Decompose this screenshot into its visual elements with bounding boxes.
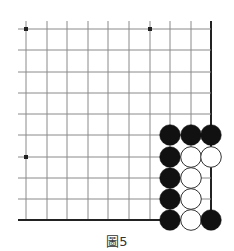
white-stone [201, 147, 222, 168]
black-stone [160, 189, 181, 210]
black-stone [201, 125, 222, 146]
star-point [24, 27, 28, 31]
figure-caption: 圖5 [0, 234, 234, 250]
black-stone [201, 210, 222, 231]
white-stone [181, 147, 202, 168]
star-point [24, 155, 28, 159]
star-point [148, 27, 152, 31]
go-board [0, 0, 234, 232]
black-stone [181, 125, 202, 146]
black-stone [160, 168, 181, 189]
stones [160, 125, 222, 231]
black-stone [160, 147, 181, 168]
white-stone [181, 168, 202, 189]
white-stone [181, 189, 202, 210]
black-stone [160, 125, 181, 146]
black-stone [160, 210, 181, 231]
white-stone [181, 210, 202, 231]
grid-lines [18, 21, 212, 221]
